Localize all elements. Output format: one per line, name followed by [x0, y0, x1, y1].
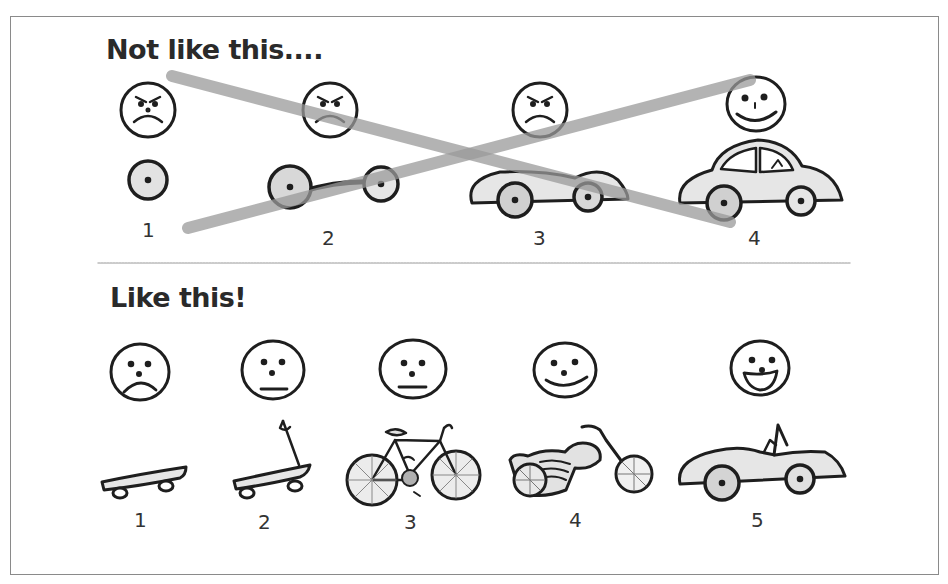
neutral-face-icon	[380, 340, 446, 398]
step-number: 4	[569, 508, 582, 532]
step-number: 4	[748, 226, 761, 250]
motorcycle-icon	[510, 426, 652, 496]
bicycle-icon	[347, 425, 480, 505]
step-number: 3	[533, 226, 546, 250]
very-happy-face-icon	[731, 341, 789, 395]
car-icon	[680, 140, 842, 220]
wheel-icon	[129, 161, 167, 199]
sad-face-icon	[111, 344, 169, 400]
strike-through-icon	[172, 76, 750, 228]
diagram-art	[0, 0, 948, 584]
step-number: 1	[142, 218, 155, 242]
step-number: 1	[134, 508, 147, 532]
skateboard-icon	[102, 467, 186, 498]
convertible-car-icon	[679, 425, 845, 500]
step-number: 5	[751, 508, 764, 532]
step-number: 3	[404, 510, 417, 534]
neutral-face-icon	[242, 341, 304, 399]
scooter-icon	[234, 421, 310, 498]
happy-face-icon	[534, 343, 596, 397]
step-number: 2	[258, 510, 271, 534]
angry-face-icon	[121, 83, 175, 137]
step-number: 2	[322, 226, 335, 250]
